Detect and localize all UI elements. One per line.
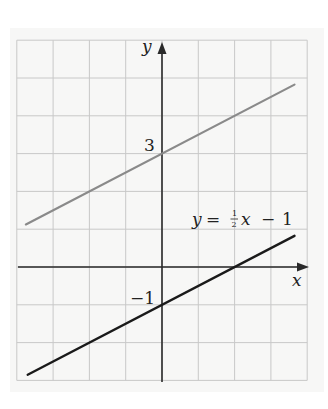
y-tick-label-3: 3 (144, 135, 155, 155)
equation-constant: 1 (282, 209, 293, 229)
x-axis-label: x (292, 270, 302, 290)
y-axis-label: y (141, 36, 152, 56)
equation-equals: = (206, 209, 220, 229)
equation-y: y (191, 209, 202, 229)
line-upper-series (26, 85, 295, 225)
equation-x: x (241, 209, 251, 229)
coordinate-plane: y x 3 −1 y = 1 2 x − 1 (0, 0, 328, 409)
equation-fraction-denominator: 2 (232, 220, 237, 229)
equation-label: y = 1 2 x − 1 (191, 209, 293, 229)
y-tick-label-neg1: −1 (130, 288, 155, 308)
equation-minus: − (261, 209, 275, 229)
y-axis-arrow-icon (158, 42, 167, 54)
equation-fraction-numerator: 1 (232, 209, 237, 218)
